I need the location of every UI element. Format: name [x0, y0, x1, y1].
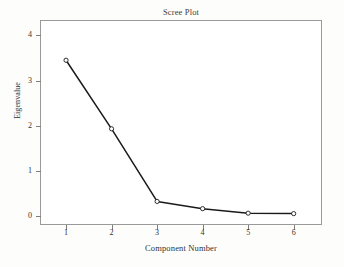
- x-tick-label: 2: [104, 229, 120, 237]
- plot-area: [40, 20, 322, 225]
- y-tick-label: 1: [16, 167, 32, 175]
- y-tick-label: 3: [16, 77, 32, 85]
- data-series-canvas: [41, 21, 321, 224]
- y-tick-mark: [36, 171, 41, 172]
- data-point: [292, 212, 296, 216]
- y-tick-label: 2: [16, 122, 32, 130]
- page-title: Scree Plot: [40, 7, 322, 17]
- data-point: [246, 211, 250, 215]
- eigenvalue-markers: [64, 58, 296, 216]
- data-point: [64, 58, 68, 62]
- x-tick-label: 3: [149, 229, 165, 237]
- x-axis-label: Component Number: [40, 243, 322, 253]
- x-tick-label: 5: [240, 229, 256, 237]
- data-point: [109, 127, 113, 131]
- y-tick-label: 0: [16, 212, 32, 220]
- data-point: [201, 207, 205, 211]
- y-tick-label: 4: [16, 31, 32, 39]
- y-tick-mark: [36, 126, 41, 127]
- y-tick-mark: [36, 216, 41, 217]
- scree-plot-figure: Scree Plot Eigenvalue 01234 123456 Compo…: [0, 0, 344, 267]
- y-tick-mark: [36, 81, 41, 82]
- x-tick-label: 1: [58, 229, 74, 237]
- x-tick-label: 4: [195, 229, 211, 237]
- y-tick-mark: [36, 35, 41, 36]
- eigenvalue-line: [66, 60, 294, 213]
- data-point: [155, 199, 159, 203]
- x-tick-label: 6: [286, 229, 302, 237]
